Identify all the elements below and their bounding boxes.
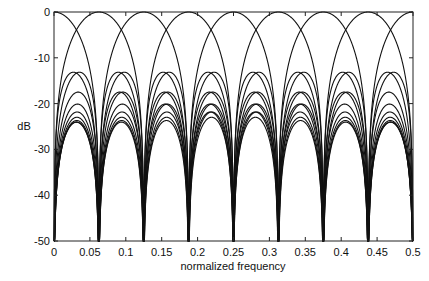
filter-response-curves bbox=[54, 12, 413, 241]
y-tick-label: -40 bbox=[34, 189, 50, 201]
x-tick-label: 0.5 bbox=[405, 246, 420, 258]
x-tick-label: 0.15 bbox=[151, 246, 172, 258]
y-tick-label: -50 bbox=[34, 235, 50, 247]
y-tick-label: 0 bbox=[44, 6, 50, 18]
x-tick-label: 0.25 bbox=[223, 246, 244, 258]
x-tick-label: 0.05 bbox=[79, 246, 100, 258]
chart: 00.050.10.150.20.250.30.350.40.450.5 0-1… bbox=[0, 0, 429, 281]
x-tick-label: 0.45 bbox=[366, 246, 387, 258]
x-tick-label: 0.3 bbox=[262, 246, 277, 258]
y-tick-label: -10 bbox=[34, 52, 50, 64]
y-axis-label: dB bbox=[17, 120, 30, 132]
y-tick-label: -20 bbox=[34, 98, 50, 110]
y-tick-label: -30 bbox=[34, 143, 50, 155]
x-tick-label: 0.35 bbox=[295, 246, 316, 258]
x-tick-label: 0.2 bbox=[190, 246, 205, 258]
x-axis-label: normalized frequency bbox=[180, 260, 286, 272]
x-tick-label: 0 bbox=[51, 246, 57, 258]
x-tick-label: 0.4 bbox=[334, 246, 349, 258]
x-tick-label: 0.1 bbox=[118, 246, 133, 258]
